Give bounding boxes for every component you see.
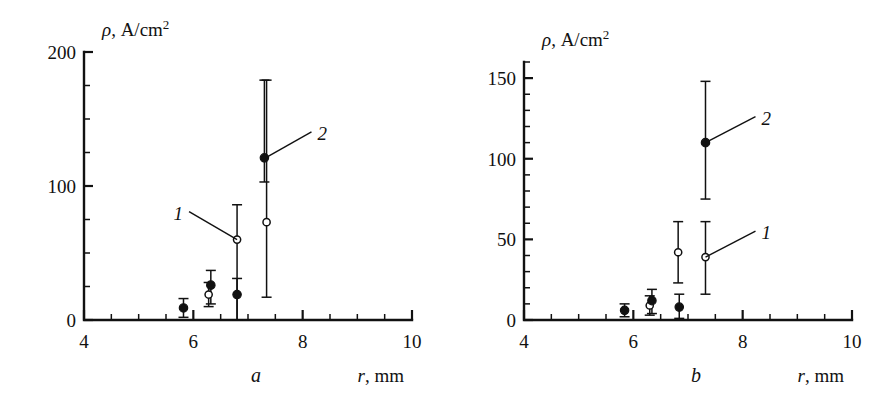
annotation-leader-line bbox=[705, 231, 755, 257]
data-point-open bbox=[675, 249, 682, 256]
y-tick-label: 50 bbox=[497, 229, 516, 250]
data-point-filled bbox=[233, 290, 241, 298]
y-axis-title: ρ, A/cm2 bbox=[101, 17, 169, 40]
y-axis-symbol: ρ bbox=[541, 29, 551, 50]
y-tick-label: 150 bbox=[488, 68, 517, 89]
series-annotation-label: 2 bbox=[317, 123, 327, 144]
data-point-filled bbox=[648, 296, 656, 304]
x-tick-label: 4 bbox=[519, 331, 529, 352]
plot-area-b: 05010015046810ρ, A/cm2r, mmb21 bbox=[488, 27, 862, 386]
y-axis-units: , A/cm bbox=[551, 29, 603, 50]
x-tick-label: 6 bbox=[629, 331, 639, 352]
chart-panel-a: 010020046810ρ, A/cm2r, mma12 bbox=[0, 0, 440, 405]
x-tick-label: 8 bbox=[298, 331, 308, 352]
data-point-filled bbox=[260, 154, 268, 162]
data-point-filled bbox=[620, 306, 628, 314]
x-tick-label: 10 bbox=[843, 331, 862, 352]
y-axis-symbol: ρ bbox=[101, 19, 111, 40]
y-axis-units: , A/cm bbox=[111, 19, 163, 40]
y-tick-label: 100 bbox=[488, 149, 517, 170]
series-annotation-label: 2 bbox=[761, 108, 771, 129]
chart-panel-b: 05010015046810ρ, A/cm2r, mmb21 bbox=[440, 0, 880, 405]
x-tick-label: 8 bbox=[738, 331, 748, 352]
y-tick-label: 100 bbox=[48, 176, 77, 197]
x-tick-label: 4 bbox=[79, 331, 89, 352]
y-axis-title: ρ, A/cm2 bbox=[541, 27, 609, 50]
plot-svg-b: 05010015046810ρ, A/cm2r, mmb21 bbox=[440, 0, 880, 405]
panel-letter: a bbox=[251, 364, 261, 386]
y-axis-exponent: 2 bbox=[163, 17, 170, 32]
series-annotation-label: 1 bbox=[174, 203, 184, 224]
axis-lines bbox=[524, 62, 852, 320]
x-axis-title: r, mm bbox=[358, 365, 405, 386]
y-axis-exponent: 2 bbox=[603, 27, 610, 42]
annotation-leader-line bbox=[705, 117, 755, 143]
plot-area-a: 010020046810ρ, A/cm2r, mma12 bbox=[48, 17, 422, 386]
y-tick-label: 200 bbox=[48, 42, 77, 63]
data-point-filled bbox=[675, 303, 683, 311]
plot-svg-a: 010020046810ρ, A/cm2r, mma12 bbox=[0, 0, 440, 405]
data-point-filled bbox=[179, 304, 187, 312]
annotation-leader-line bbox=[189, 212, 237, 240]
figure-container: 010020046810ρ, A/cm2r, mma12 05010015046… bbox=[0, 0, 880, 405]
y-tick-label: 0 bbox=[507, 310, 517, 331]
annotation-leader-line bbox=[265, 132, 311, 158]
series-annotation-label: 1 bbox=[761, 222, 771, 243]
data-point-open bbox=[205, 291, 212, 298]
panel-letter: b bbox=[691, 364, 701, 386]
axis-lines bbox=[84, 52, 412, 320]
x-axis-units: , mm bbox=[365, 365, 404, 386]
x-axis-units: , mm bbox=[805, 365, 844, 386]
x-tick-label: 10 bbox=[403, 331, 422, 352]
data-point-filled bbox=[207, 281, 215, 289]
y-tick-label: 0 bbox=[67, 310, 77, 331]
x-axis-title: r, mm bbox=[798, 365, 845, 386]
x-tick-label: 6 bbox=[189, 331, 199, 352]
data-point-open bbox=[263, 219, 270, 226]
